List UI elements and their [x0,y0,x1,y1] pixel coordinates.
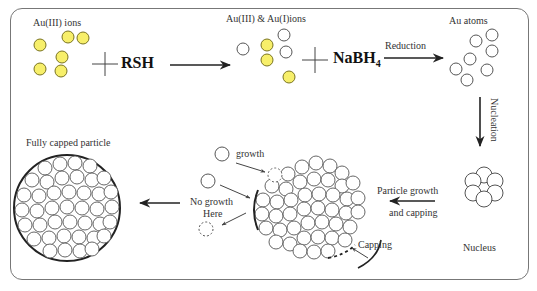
au-atoms-group [450,29,498,86]
au3-ions-group [34,31,89,77]
no-growth-label: No growth [190,196,233,207]
nucleus-label: Nucleus [463,242,496,253]
plus-icon [302,47,328,73]
nabh-subscript: 4 [376,58,381,69]
nabh4-label: NaBH4 [333,49,381,69]
au-atoms-label: Au atoms [449,15,488,26]
arrow-icon [222,213,246,225]
reduction-label: Reduction [385,40,426,51]
fully-capped-label: Fully capped particle [26,137,110,148]
and-capping-label: and capping [389,207,438,218]
fully-capped-particle [14,155,120,261]
here-label: Here [203,208,222,219]
mixed-ions-group [237,29,295,83]
growth-label: growth [236,148,264,159]
mixed-ions-label: Au(III) & Au(I)ions [226,13,306,24]
dashed-atom [199,222,213,236]
au3-ions-label: Au(III) ions [33,17,81,28]
nabh-text: NaBH [333,49,376,66]
rsh-label: RSH [121,54,154,72]
plus-icon [92,52,118,76]
free-atom [215,147,229,161]
free-atom [201,174,215,188]
capping-label: Capping [358,239,392,250]
nucleus-cluster [465,167,503,207]
growing-particle [255,156,365,259]
particle-growth-label: Particle growth [377,185,438,196]
arrow-icon [236,163,265,172]
nucleation-label: Nucleation [489,98,500,142]
